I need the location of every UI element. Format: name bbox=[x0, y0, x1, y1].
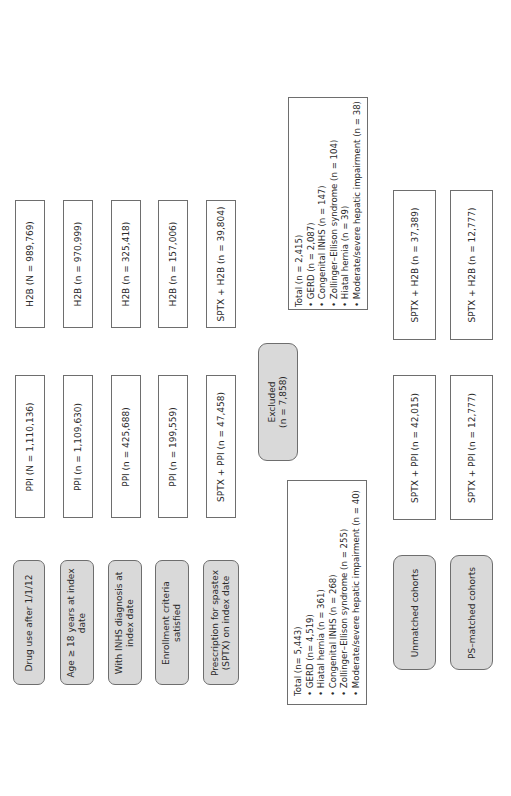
ppi-count: SPTX + PPI (n = 47,458) bbox=[216, 392, 227, 502]
h2b-exclusion-item: • GERD (n = 2,087) bbox=[305, 101, 317, 307]
ppi-count: PPI (n = 199,559) bbox=[168, 407, 179, 487]
ppi-count: PPI (n = 425,688) bbox=[121, 407, 132, 487]
h2b-count-box-age: H2B (n = 970,999) bbox=[63, 200, 93, 328]
ppi-exclusions-list: Total (n= 5,443) • GERD (n= 4,519) • Hia… bbox=[293, 490, 362, 696]
ppi-exclusions-box: Total (n= 5,443) • GERD (n= 4,519) • Hia… bbox=[287, 480, 367, 705]
criteria-label: With INHS diagnosis at index date bbox=[114, 565, 136, 680]
excluded-count: (n = 7,858) bbox=[278, 376, 289, 428]
h2b-count: H2B (n = 970,999) bbox=[73, 222, 84, 307]
cohort-h2b-count: SPTX + H2B (n = 12,777) bbox=[466, 207, 477, 322]
cohort-ppi-count: SPTX + PPI (n = 42,015) bbox=[409, 393, 420, 503]
h2b-exclusion-item: • Hiatal hernia (n = 39) bbox=[340, 101, 352, 307]
h2b-count-box-inhs-diagnosis: H2B (n = 325,418) bbox=[111, 200, 141, 328]
h2b-count: H2B (N = 989,769) bbox=[25, 221, 36, 307]
criteria-label-box-sptx-prescription: Prescription for spastex (SPTX) on index… bbox=[203, 560, 239, 685]
h2b-count: H2B (n = 157,006) bbox=[168, 222, 179, 307]
criteria-label: Enrollment criteria satisfied bbox=[161, 568, 183, 678]
criteria-label-box-inhs-diagnosis: With INHS diagnosis at index date bbox=[108, 560, 142, 685]
cohort-label: PS–matched cohorts bbox=[466, 567, 477, 659]
h2b-count-box-drug-use: H2B (N = 989,769) bbox=[15, 200, 45, 328]
ppi-count-box-sptx: SPTX + PPI (n = 47,458) bbox=[206, 375, 236, 518]
ppi-count-box-age: PPI (n = 1,109,630) bbox=[63, 375, 93, 518]
h2b-exclusions-total: Total (n = 2,415) bbox=[294, 101, 306, 307]
criteria-label: Drug use after 1/1/12 bbox=[24, 563, 35, 683]
h2b-count: H2B (n = 325,418) bbox=[121, 222, 132, 307]
unmatched-ppi-box: SPTX + PPI (n = 42,015) bbox=[393, 375, 436, 520]
ppi-count-box-inhs-diagnosis: PPI (n = 425,688) bbox=[111, 375, 141, 518]
ps-matched-cohorts-box: PS–matched cohorts bbox=[450, 555, 493, 670]
ppi-exclusions-total: Total (n= 5,443) bbox=[293, 490, 305, 696]
unmatched-cohorts-box: Unmatched cohorts bbox=[393, 555, 436, 670]
h2b-exclusions-list: Total (n = 2,415) • GERD (n = 2,087) • C… bbox=[294, 101, 363, 307]
ppi-exclusion-item: • Congenital INHS (n = 268) bbox=[327, 490, 339, 696]
ppi-count: PPI (N = 1,110,136) bbox=[25, 402, 36, 491]
criteria-label: Age ≥ 18 years at index date bbox=[66, 565, 88, 680]
ppi-exclusion-item: • Moderate/severe hepatic impairment (n … bbox=[350, 490, 362, 696]
excluded-box: Excluded (n = 7,858) bbox=[258, 343, 298, 461]
ppi-count-box-drug-use: PPI (N = 1,110,136) bbox=[15, 375, 45, 518]
cohort-h2b-count: SPTX + H2B (n = 37,389) bbox=[409, 207, 420, 322]
h2b-count: SPTX + H2B (n = 39,804) bbox=[216, 206, 227, 321]
ppi-count-box-enrollment: PPI (n = 199,559) bbox=[158, 375, 188, 518]
criteria-label-box-age: Age ≥ 18 years at index date bbox=[60, 560, 94, 685]
ppi-exclusion-item: • Zollinger–Ellison syndrome (n = 255) bbox=[339, 490, 351, 696]
h2b-count-box-sptx: SPTX + H2B (n = 39,804) bbox=[206, 200, 236, 328]
ps-matched-h2b-box: SPTX + H2B (n = 12,777) bbox=[450, 190, 493, 340]
h2b-count-box-enrollment: H2B (n = 157,006) bbox=[158, 200, 188, 328]
excluded-label: Excluded (n = 7,858) bbox=[267, 376, 289, 428]
ppi-exclusion-item: • GERD (n= 4,519) bbox=[304, 490, 316, 696]
excluded-title: Excluded bbox=[267, 376, 278, 428]
ppi-exclusion-item: • Hiatal hernia (n = 361) bbox=[316, 490, 328, 696]
criteria-label-box-enrollment: Enrollment criteria satisfied bbox=[155, 560, 189, 685]
h2b-exclusion-item: • Zollinger–Ellison syndrome (n = 104) bbox=[328, 101, 340, 307]
cohort-ppi-count: SPTX + PPI (n = 12,777) bbox=[466, 393, 477, 503]
h2b-exclusions-box: Total (n = 2,415) • GERD (n = 2,087) • C… bbox=[288, 97, 368, 310]
h2b-exclusion-item: • Moderate/severe hepatic impairment (n … bbox=[351, 101, 363, 307]
criteria-label-box-drug-use: Drug use after 1/1/12 bbox=[13, 560, 45, 685]
h2b-exclusion-item: • Congenital INHS (n = 147) bbox=[317, 101, 329, 307]
cohort-label: Unmatched cohorts bbox=[409, 568, 420, 656]
ppi-count: PPI (n = 1,109,630) bbox=[73, 402, 84, 490]
criteria-label: Prescription for spastex (SPTX) on index… bbox=[210, 565, 232, 680]
ps-matched-ppi-box: SPTX + PPI (n = 12,777) bbox=[450, 375, 493, 520]
unmatched-h2b-box: SPTX + H2B (n = 37,389) bbox=[393, 190, 436, 340]
